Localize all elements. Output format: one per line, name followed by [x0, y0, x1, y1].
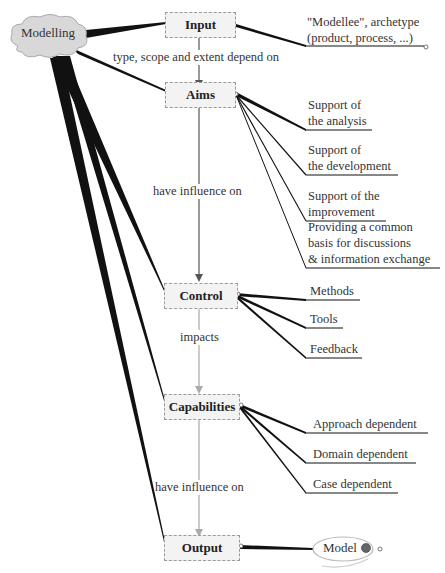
- node-aims[interactable]: Aims: [165, 82, 236, 108]
- node-output-label: Output: [165, 536, 239, 560]
- leaf-feedback[interactable]: Feedback: [310, 341, 358, 357]
- leaf-domain-dependent[interactable]: Domain dependent: [313, 446, 408, 462]
- node-output[interactable]: Output: [164, 535, 240, 561]
- leaf-tools[interactable]: Tools: [310, 311, 338, 327]
- node-input-label: Input: [166, 13, 235, 37]
- leaf-methods[interactable]: Methods: [310, 283, 354, 299]
- node-aims-label: Aims: [166, 83, 235, 107]
- leaf-model[interactable]: Model: [323, 540, 357, 556]
- node-capabilities[interactable]: Capabilities: [164, 394, 240, 420]
- node-input[interactable]: Input: [165, 12, 236, 38]
- root-node-modelling[interactable]: Modelling: [8, 25, 88, 41]
- node-capabilities-label: Capabilities: [165, 395, 239, 419]
- leaf-support-development[interactable]: Support of the development: [308, 142, 391, 174]
- relation-label-capabilities-output: have influence on: [155, 480, 244, 495]
- leaf-common-basis[interactable]: Providing a common basis for discussions…: [308, 219, 430, 267]
- leaf-modellee-archetype[interactable]: "Modellee", archetype (product, process,…: [307, 14, 419, 46]
- leaf-approach-dependent[interactable]: Approach dependent: [313, 416, 417, 432]
- relation-label-aims-control: have influence on: [153, 184, 242, 199]
- globe-icon: [362, 544, 371, 553]
- relation-label-input-aims: type, scope and extent depend on: [113, 50, 279, 65]
- relation-label-control-capabilities: impacts: [180, 330, 219, 345]
- leaf-case-dependent[interactable]: Case dependent: [313, 476, 392, 492]
- node-control-label: Control: [165, 284, 237, 308]
- leaf-support-analysis[interactable]: Support of the analysis: [308, 97, 367, 129]
- leaf-support-improvement[interactable]: Support of the improvement: [308, 188, 380, 220]
- node-control[interactable]: Control: [164, 283, 238, 309]
